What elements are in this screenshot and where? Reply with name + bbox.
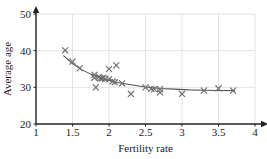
y-axis-ticks: 20304050 <box>20 8 36 130</box>
x-axis-arrowhead <box>261 121 267 127</box>
y-axis-arrowhead <box>33 6 39 13</box>
x-tick-label: 1 <box>33 126 39 138</box>
y-tick-label: 30 <box>20 81 32 93</box>
y-tick-label: 20 <box>20 118 32 130</box>
data-point-marker <box>77 66 82 71</box>
fit-curve <box>64 56 235 91</box>
gridlines <box>36 14 255 124</box>
data-points <box>63 48 236 97</box>
y-tick-label: 50 <box>20 8 32 20</box>
y-axis-title: Average age <box>1 42 13 97</box>
y-tick-label: 40 <box>20 45 32 57</box>
x-axis-ticks: 11.522.533.54 <box>33 124 258 138</box>
data-point-marker <box>157 90 162 95</box>
x-tick-label: 2 <box>106 126 112 138</box>
fitted-trend-line <box>64 56 235 91</box>
axes <box>33 6 267 127</box>
data-point-marker <box>128 91 133 96</box>
x-tick-label: 2.5 <box>139 126 153 138</box>
data-point-marker <box>114 63 119 68</box>
x-tick-label: 3 <box>179 126 185 138</box>
x-tick-label: 4 <box>252 126 258 138</box>
chart-canvas: 11.522.533.54 20304050 Fertility rate Av… <box>0 0 267 159</box>
scatter-chart: 11.522.533.54 20304050 Fertility rate Av… <box>0 0 267 159</box>
x-tick-label: 1.5 <box>66 126 80 138</box>
x-axis-title: Fertility rate <box>118 142 173 154</box>
x-tick-label: 3.5 <box>212 126 226 138</box>
